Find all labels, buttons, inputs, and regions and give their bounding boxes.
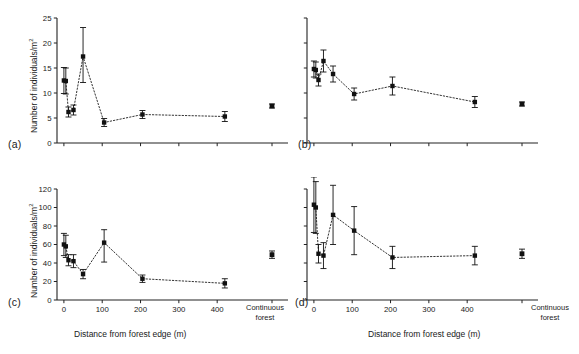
- y-axis-unit-exponent: 2: [28, 204, 34, 207]
- data-point-5-marker[interactable]: [352, 92, 356, 96]
- x-axis-tick-label: 200: [134, 305, 148, 314]
- data-point-4-marker[interactable]: [81, 272, 85, 276]
- figure-panel-grid: 0510152025 (a) Number of individuals/m2 …: [0, 0, 579, 354]
- panel-d-continuous-forest-label: Continuousforest: [522, 303, 578, 322]
- continuous-forest-marker[interactable]: [270, 252, 275, 257]
- data-point-4-marker[interactable]: [81, 54, 85, 58]
- panel-d-plot: 0100200300400: [290, 177, 579, 354]
- data-point-7-marker[interactable]: [223, 114, 227, 118]
- y-axis-tick-label: 100: [38, 203, 52, 212]
- panel-c-y-axis-title: Number of individuals/m2: [28, 204, 39, 298]
- panel-c-continuous-forest-label: Continuousforest: [237, 303, 293, 322]
- data-point-6-marker[interactable]: [390, 84, 394, 88]
- data-point-5-marker[interactable]: [352, 228, 356, 232]
- series-connector-line: [314, 61, 475, 102]
- series-connector-line: [314, 205, 475, 258]
- y-axis-tick-label: 0: [47, 296, 52, 305]
- x-axis-tick-label: 300: [422, 305, 436, 314]
- data-point-7-marker[interactable]: [473, 100, 477, 104]
- continuous-forest-marker[interactable]: [520, 102, 525, 107]
- x-axis-tick-label: 100: [346, 305, 360, 314]
- panel-d-tag: (d): [295, 296, 308, 308]
- x-axis-tick-label: 100: [96, 305, 110, 314]
- y-axis-tick-label: 0: [47, 139, 52, 148]
- panel-c-tag: (c): [8, 296, 21, 308]
- data-point-7-marker[interactable]: [223, 281, 227, 285]
- data-point-1-marker[interactable]: [64, 244, 68, 248]
- data-point-2-marker[interactable]: [66, 110, 70, 114]
- data-point-3-marker[interactable]: [71, 108, 75, 112]
- x-axis-tick-label: 0: [62, 305, 67, 314]
- continuous-forest-marker[interactable]: [520, 251, 525, 256]
- y-axis-unit-exponent: 2: [28, 39, 34, 42]
- panel-a-tag: (a): [8, 138, 21, 150]
- data-point-6-marker[interactable]: [140, 277, 144, 281]
- panel-d-x-axis-title: Distance from forest edge (m): [368, 329, 480, 339]
- y-axis-tick-label: 40: [43, 259, 52, 268]
- data-point-2-marker[interactable]: [316, 252, 320, 256]
- data-point-6-marker[interactable]: [390, 255, 394, 259]
- data-point-7-marker[interactable]: [473, 253, 477, 257]
- x-axis-tick-label: 400: [211, 305, 225, 314]
- panel-a: 0510152025 (a) Number of individuals/m2: [0, 0, 290, 177]
- y-axis-tick-label: 5: [47, 114, 52, 123]
- panel-b: (b): [290, 0, 579, 177]
- continuous-forest-marker[interactable]: [270, 104, 275, 109]
- panel-d: 0100200300400 (d) Distance from forest e…: [290, 177, 579, 354]
- panel-c: 0204060801001200100200300400 (c) Number …: [0, 177, 290, 354]
- y-axis-tick-label: 15: [43, 64, 52, 73]
- data-point-5-marker[interactable]: [102, 120, 106, 124]
- panel-a-plot: 0510152025: [0, 0, 290, 177]
- y-axis-tick-label: 60: [43, 240, 52, 249]
- x-axis-tick-label: 0: [312, 305, 317, 314]
- data-point-4-marker[interactable]: [331, 72, 335, 76]
- panel-b-plot: [290, 0, 579, 177]
- y-axis-tick-label: 25: [43, 14, 52, 23]
- y-axis-tick-label: 120: [38, 185, 52, 194]
- data-point-1-marker[interactable]: [314, 205, 318, 209]
- y-axis-tick-label: 20: [43, 39, 52, 48]
- data-point-2-marker[interactable]: [316, 78, 320, 82]
- panel-a-y-axis-title: Number of individuals/m2: [28, 39, 39, 133]
- data-point-5-marker[interactable]: [102, 240, 106, 244]
- panel-c-x-axis-title: Distance from forest edge (m): [74, 329, 186, 339]
- y-axis-tick-label: 80: [43, 222, 52, 231]
- x-axis-tick-label: 400: [461, 305, 475, 314]
- data-point-2-marker[interactable]: [66, 258, 70, 262]
- panel-b-tag: (b): [298, 138, 311, 150]
- data-point-1-marker[interactable]: [64, 79, 68, 83]
- panel-c-plot: 0204060801001200100200300400: [0, 177, 290, 354]
- x-axis-tick-label: 300: [172, 305, 186, 314]
- data-point-3-marker[interactable]: [321, 253, 325, 257]
- x-axis-tick-label: 200: [384, 305, 398, 314]
- data-point-3-marker[interactable]: [71, 259, 75, 263]
- data-point-4-marker[interactable]: [331, 213, 335, 217]
- data-point-6-marker[interactable]: [140, 112, 144, 116]
- data-point-1-marker[interactable]: [314, 68, 318, 72]
- y-axis-tick-label: 10: [43, 89, 52, 98]
- data-point-3-marker[interactable]: [321, 59, 325, 63]
- y-axis-tick-label: 20: [43, 277, 52, 286]
